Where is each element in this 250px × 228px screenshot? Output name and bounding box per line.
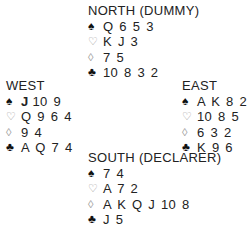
west-diamonds: 9 4 (21, 125, 42, 141)
spade-icon: ♠ (88, 166, 103, 182)
south-title: SOUTH (DECLARER) (88, 150, 221, 166)
south-hearts: A 7 2 (103, 181, 138, 197)
diamond-icon: ◊ (88, 197, 103, 213)
north-hand: NORTH (DUMMY) ♠ Q 6 5 3 ♡ K J 3 ◊ 7 5 ♣ … (88, 3, 199, 81)
heart-icon: ♡ (182, 109, 197, 125)
north-spades-row: ♠ Q 6 5 3 (88, 19, 199, 35)
west-title: WEST (6, 78, 72, 94)
south-spades-row: ♠ 7 4 (88, 166, 221, 182)
south-spades: 7 4 (103, 166, 124, 182)
south-hearts-row: ♡ A 7 2 (88, 181, 221, 197)
club-icon: ♣ (6, 140, 21, 156)
west-clubs: A Q 7 4 (21, 140, 72, 156)
south-clubs: J 5 (103, 212, 123, 228)
east-hand: EAST ♠ A K 8 2 ♡ 10 8 5 ◊ 6 3 2 ♣ K 9 6 (182, 78, 247, 156)
south-diamonds: A K Q J 10 8 (103, 197, 190, 213)
east-hearts: 10 8 5 (197, 109, 239, 125)
south-diamonds-row: ◊ A K Q J 10 8 (88, 197, 221, 213)
north-hearts: K J 3 (103, 34, 138, 50)
spade-icon: ♠ (6, 94, 21, 110)
east-hearts-row: ♡ 10 8 5 (182, 109, 247, 125)
diamond-icon: ◊ (6, 125, 21, 141)
north-diamonds: 7 5 (103, 50, 124, 66)
spade-icon: ♠ (88, 19, 103, 35)
east-spades: A K 8 2 (197, 94, 247, 110)
heart-icon: ♡ (6, 109, 21, 125)
north-spades: Q 6 5 3 (103, 19, 154, 35)
diamond-icon: ◊ (88, 50, 103, 66)
north-title: NORTH (DUMMY) (88, 3, 199, 19)
north-hearts-row: ♡ K J 3 (88, 34, 199, 50)
west-diamonds-row: ◊ 9 4 (6, 125, 72, 141)
heart-icon: ♡ (88, 181, 103, 197)
west-hearts: Q 9 6 4 (21, 109, 72, 125)
south-clubs-row: ♣ J 5 (88, 212, 221, 228)
east-diamonds: 6 3 2 (197, 125, 231, 141)
north-diamonds-row: ◊ 7 5 (88, 50, 199, 66)
west-hearts-row: ♡ Q 9 6 4 (6, 109, 72, 125)
club-icon: ♣ (88, 212, 103, 228)
spade-icon: ♠ (182, 94, 197, 110)
heart-icon: ♡ (88, 34, 103, 50)
east-title: EAST (182, 78, 247, 94)
west-spades-highlight: J (21, 94, 29, 110)
club-icon: ♣ (88, 65, 103, 81)
west-hand: WEST ♠ J 10 9 ♡ Q 9 6 4 ◊ 9 4 ♣ A Q 7 4 (6, 78, 72, 156)
west-spades-row: ♠ J 10 9 (6, 94, 72, 110)
west-spades: 10 9 (32, 94, 61, 110)
west-clubs-row: ♣ A Q 7 4 (6, 140, 72, 156)
diamond-icon: ◊ (182, 125, 197, 141)
south-hand: SOUTH (DECLARER) ♠ 7 4 ♡ A 7 2 ◊ A K Q J… (88, 150, 221, 228)
east-diamonds-row: ◊ 6 3 2 (182, 125, 247, 141)
east-spades-row: ♠ A K 8 2 (182, 94, 247, 110)
north-clubs: 10 8 3 2 (103, 65, 158, 81)
